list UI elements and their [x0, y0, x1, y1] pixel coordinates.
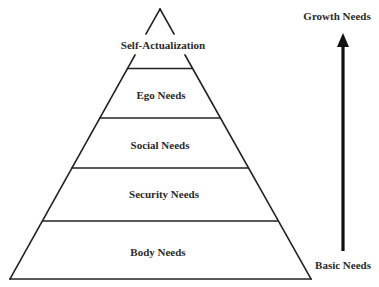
level-label-body-needs: Body Needs [130, 247, 185, 258]
arrow-up-icon [337, 33, 349, 47]
pyramid-right-edge [185, 55, 311, 279]
level-label-self-actualization: Self-Actualization [121, 40, 205, 51]
level-label-social-needs: Social Needs [131, 140, 190, 151]
maslow-pyramid-diagram: Self-Actualization Ego Needs Social Need… [0, 0, 379, 287]
arrow-bottom-label: Basic Needs [315, 260, 371, 271]
pyramid-left-edge [10, 55, 135, 279]
arrow-top-label: Growth Needs [303, 11, 370, 22]
pyramid-apex-left-edge [146, 9, 160, 34]
level-label-security-needs: Security Needs [129, 189, 199, 200]
level-label-ego-needs: Ego Needs [136, 90, 185, 101]
pyramid-apex-right-edge [160, 9, 174, 34]
